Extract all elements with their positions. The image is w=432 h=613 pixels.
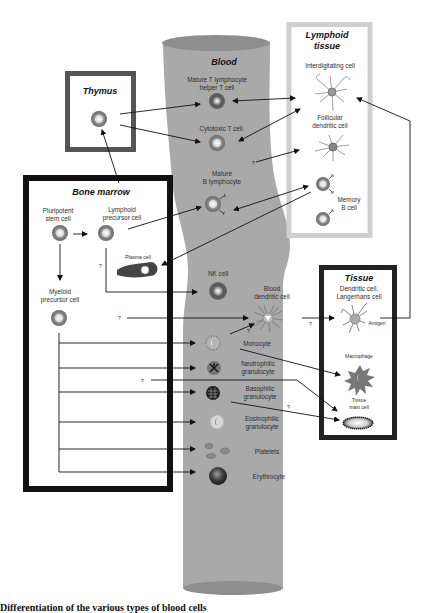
bone-marrow-box bbox=[26, 178, 170, 489]
helper-t-cell-icon bbox=[209, 93, 225, 109]
thymus-cell-icon bbox=[91, 111, 107, 127]
figure-caption: Differentiation of the various types of … bbox=[0, 602, 207, 613]
memory-b-label-2: B cell bbox=[341, 204, 357, 211]
blood-dendritic-label-1: Blood bbox=[264, 285, 281, 292]
eosinophil-label-2: granulocyte bbox=[245, 423, 278, 431]
mast-label-1: Tissue bbox=[352, 397, 367, 403]
eosinophil-label-1: Eosinophilic bbox=[245, 415, 280, 423]
bone-marrow-title: Bone marrow bbox=[72, 187, 131, 197]
mast-label-2: mast cell bbox=[349, 404, 369, 410]
lymphoid-tissue-title-line2: tissue bbox=[314, 41, 340, 51]
question-mark-basophil-mast: ? bbox=[287, 404, 290, 410]
interdigitating-label: Interdigitating cell bbox=[305, 62, 355, 70]
lymphoid-precursor-label-2: precursor cell bbox=[103, 214, 141, 222]
myeloid-precursor-cell-icon bbox=[51, 310, 67, 326]
cytotoxic-t-label: Cytotoxic T cell bbox=[199, 125, 242, 133]
lymphoid-precursor-label-1: Lymphoid bbox=[108, 206, 136, 214]
thymus-title: Thymus bbox=[83, 86, 118, 96]
helper-t-label-1: Mature T lymphocyte bbox=[187, 76, 247, 84]
question-mark-blood-dendritic: ? bbox=[118, 315, 121, 321]
macrophage-label: Macrophage bbox=[345, 353, 373, 359]
erythrocyte-label: Erythrocyte bbox=[253, 473, 286, 481]
myeloid-precursor-label-1: Myeloid bbox=[49, 288, 71, 296]
lymphoid-tissue-title-line1: Lymphoid bbox=[306, 30, 349, 40]
blood-dendritic-label-2: dendritic cell bbox=[254, 293, 290, 300]
antigen-label: Antigen bbox=[369, 320, 386, 326]
tissue-title: Tissue bbox=[345, 273, 373, 283]
tissue-dendritic-label-1: Dendritic cell, bbox=[340, 285, 379, 292]
platelets-label: Platelets bbox=[255, 448, 280, 455]
eosinophil-icon bbox=[210, 415, 224, 429]
follicular-dendritic-label-1: Follicular bbox=[317, 114, 343, 121]
question-mark-mast-lineage: ? bbox=[141, 378, 144, 384]
erythrocyte-icon bbox=[209, 467, 227, 485]
neutrophil-label-2: granulocyte bbox=[241, 368, 274, 376]
plasma-label: Plasma cell bbox=[125, 254, 151, 260]
question-mark-nk: ? bbox=[99, 263, 102, 269]
pluripotent-label-2: stem cell bbox=[45, 215, 70, 222]
mature-b-label-1: Mature bbox=[212, 170, 232, 177]
follicular-dendritic-label-2: dendritic cell bbox=[312, 122, 348, 129]
memory-b-label-1: Memory bbox=[337, 196, 361, 204]
nk-label: NK cell bbox=[208, 270, 228, 277]
blood-title: Blood bbox=[211, 57, 237, 67]
myeloid-precursor-label-2: precursor cell bbox=[41, 296, 79, 304]
cytotoxic-t-cell-icon bbox=[209, 135, 225, 151]
question-mark-follicular: ? bbox=[252, 160, 255, 166]
nk-cell-icon bbox=[209, 282, 227, 300]
mast-cell-icon bbox=[343, 417, 373, 429]
lymphoid-tissue-box bbox=[289, 25, 370, 236]
pluripotent-label-1: Pluripotent bbox=[43, 207, 74, 215]
neutrophil-label-1: Neutrophilic bbox=[241, 360, 276, 368]
monocyte-label: Monocyte bbox=[243, 340, 271, 348]
pluripotent-cell-icon bbox=[52, 225, 68, 241]
tissue-dendritic-label-2: Langerhans cell bbox=[336, 293, 381, 301]
helper-t-label-2: helper T cell bbox=[200, 84, 235, 92]
basophil-label-2: granulocyte bbox=[243, 393, 276, 401]
mature-b-label-2: B lymphocyte bbox=[203, 178, 242, 186]
lymphoid-precursor-cell-icon bbox=[98, 225, 114, 241]
neutrophil-icon bbox=[207, 361, 221, 375]
basophil-icon bbox=[206, 386, 220, 400]
basophil-label-1: Basophilic bbox=[245, 385, 275, 393]
question-mark-monocyte-dendritic: ? bbox=[247, 328, 250, 334]
question-mark-tissue-dendritic: ? bbox=[309, 321, 312, 327]
blood-cell-differentiation-diagram: Blood Thymus Lymphoid tissue Bone marrow… bbox=[0, 0, 432, 613]
monocyte-icon bbox=[206, 336, 220, 350]
